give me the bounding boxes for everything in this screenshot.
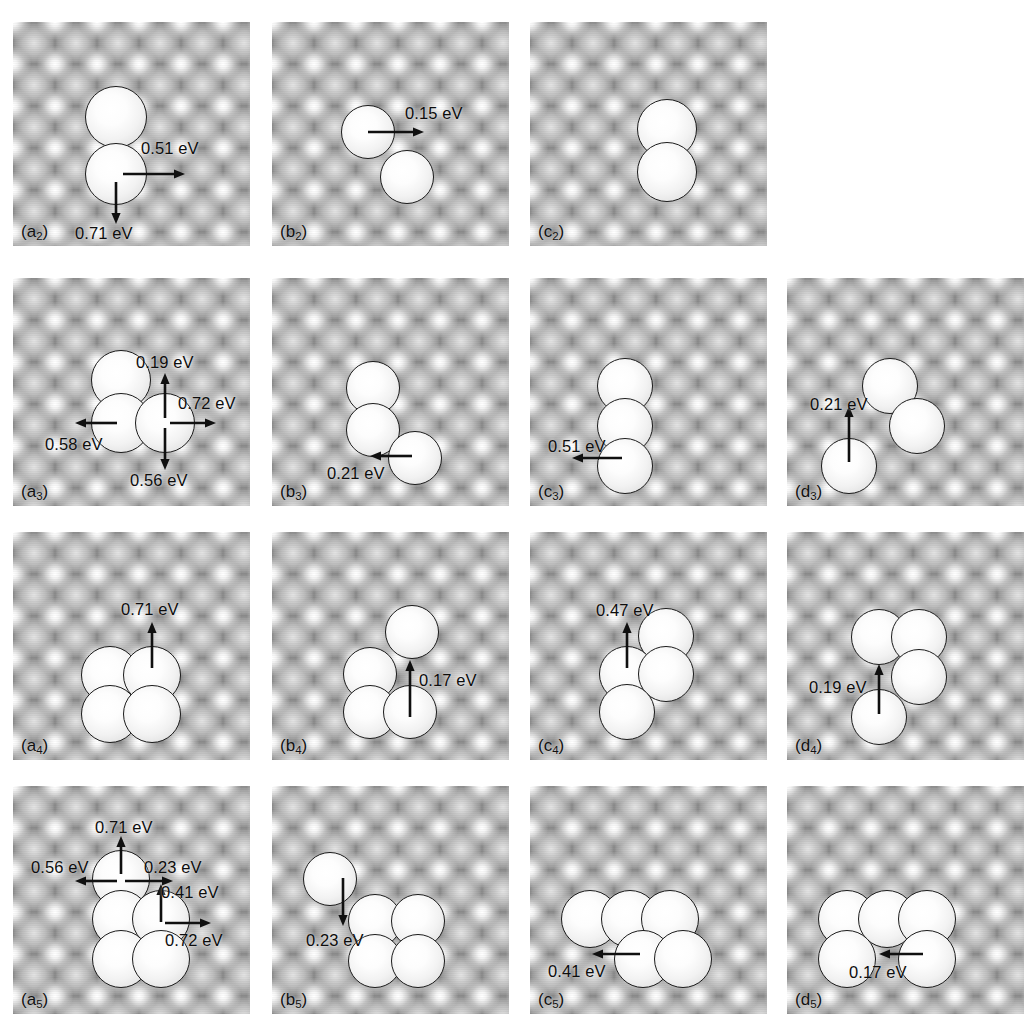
panel-caption-b2: (b2) — [280, 222, 307, 242]
caption-tail: ) — [302, 990, 308, 1009]
panel-b3: 0.21 eV(b3) — [272, 278, 509, 506]
caption-tail: ) — [559, 222, 565, 241]
panel-d4: 0.19 eV(d4) — [787, 532, 1024, 760]
panel-caption-d5: (d5) — [795, 990, 822, 1010]
adatom — [85, 86, 147, 148]
caption-tail: ) — [302, 222, 308, 241]
panel-caption-a3: (a3) — [21, 482, 48, 502]
panel-caption-c2: (c2) — [538, 222, 564, 242]
caption-tail: ) — [559, 990, 565, 1009]
caption-subscript: 3 — [552, 490, 558, 502]
adatom — [123, 685, 181, 743]
energy-barrier-label: 0.47 eV — [596, 602, 654, 619]
panel-caption-c4: (c4) — [538, 736, 564, 756]
adatom — [599, 684, 655, 740]
panel-caption-c5: (c5) — [538, 990, 564, 1010]
energy-barrier-label: 0.71 eV — [75, 225, 133, 242]
caption-main: (b — [280, 482, 295, 501]
energy-barrier-label: 0.21 eV — [810, 396, 868, 413]
energy-barrier-label: 0.15 eV — [405, 105, 463, 122]
panel-c2: (c2) — [530, 22, 767, 246]
adatom — [891, 649, 947, 705]
caption-subscript: 4 — [552, 744, 558, 756]
caption-main: (b — [280, 222, 295, 241]
caption-main: (c — [538, 990, 552, 1009]
caption-subscript: 4 — [810, 744, 816, 756]
panel-a5: 0.71 eV0.56 eV0.23 eV0.41 eV0.72 eV(a5) — [13, 786, 250, 1014]
caption-main: (d — [795, 990, 810, 1009]
adatom — [889, 398, 945, 454]
caption-main: (a — [21, 222, 36, 241]
caption-tail: ) — [559, 482, 565, 501]
arrow-left-icon — [61, 409, 131, 437]
caption-subscript: 4 — [295, 744, 301, 756]
caption-tail: ) — [817, 736, 823, 755]
caption-main: (c — [538, 736, 552, 755]
caption-subscript: 2 — [295, 230, 301, 242]
panel-caption-b3: (b3) — [280, 482, 307, 502]
caption-tail: ) — [817, 482, 823, 501]
arrow-up-icon — [613, 608, 641, 682]
caption-tail: ) — [43, 482, 49, 501]
caption-main: (b — [280, 736, 295, 755]
caption-subscript: 5 — [552, 998, 558, 1010]
caption-tail: ) — [559, 736, 565, 755]
adatom — [654, 930, 712, 988]
adatom — [637, 142, 697, 202]
caption-subscript: 2 — [36, 230, 42, 242]
caption-subscript: 3 — [810, 490, 816, 502]
caption-subscript: 3 — [36, 490, 42, 502]
panel-caption-b5: (b5) — [280, 990, 307, 1010]
adatom — [380, 150, 434, 204]
energy-barrier-label: 0.17 eV — [419, 672, 477, 689]
energy-barrier-label: 0.58 eV — [45, 436, 103, 453]
caption-main: (a — [21, 990, 36, 1009]
arrow-down-icon — [329, 864, 357, 940]
caption-main: (a — [21, 736, 36, 755]
caption-subscript: 2 — [552, 230, 558, 242]
caption-main: (d — [795, 736, 810, 755]
panel-c4: 0.47 eV(c4) — [530, 532, 767, 760]
panel-a2: 0.51 eV0.71 eV(a2) — [13, 22, 250, 246]
energy-barrier-label: 0.23 eV — [144, 859, 202, 876]
energy-barrier-label: 0.19 eV — [809, 679, 867, 696]
energy-barrier-label: 0.51 eV — [141, 140, 199, 157]
energy-barrier-label: 0.56 eV — [130, 472, 188, 489]
panel-d3: 0.21 eV(d3) — [787, 278, 1024, 506]
energy-barrier-label: 0.51 eV — [548, 438, 606, 455]
energy-barrier-label: 0.41 eV — [548, 963, 606, 980]
caption-subscript: 3 — [295, 490, 301, 502]
panel-caption-b4: (b4) — [280, 736, 307, 756]
panel-c3: 0.51 eV(c3) — [530, 278, 767, 506]
caption-tail: ) — [817, 990, 823, 1009]
energy-barrier-label: 0.56 eV — [31, 859, 89, 876]
energy-barrier-label: 0.72 eV — [165, 932, 223, 949]
panel-caption-d4: (d4) — [795, 736, 822, 756]
panel-b4: 0.17 eV(b4) — [272, 532, 509, 760]
caption-main: (b — [280, 990, 295, 1009]
energy-barrier-label: 0.71 eV — [95, 819, 153, 836]
panel-b5: 0.23 eV(b5) — [272, 786, 509, 1014]
panel-a4: 0.71 eV(a4) — [13, 532, 250, 760]
panel-caption-a4: (a4) — [21, 736, 48, 756]
arrow-right-icon — [354, 118, 438, 146]
energy-barrier-label: 0.72 eV — [178, 395, 236, 412]
panel-b2: 0.15 eV(b2) — [272, 22, 509, 246]
energy-barrier-label: 0.71 eV — [121, 601, 179, 618]
panel-d5: 0.17 eV(d5) — [787, 786, 1024, 1014]
caption-tail: ) — [43, 736, 49, 755]
caption-tail: ) — [302, 736, 308, 755]
caption-tail: ) — [302, 482, 308, 501]
energy-barrier-label: 0.21 eV — [327, 465, 385, 482]
energy-barrier-label: 0.41 eV — [161, 884, 219, 901]
panel-caption-c3: (c3) — [538, 482, 564, 502]
caption-subscript: 5 — [36, 998, 42, 1010]
caption-tail: ) — [43, 990, 49, 1009]
energy-barrier-label: 0.19 eV — [136, 354, 194, 371]
panel-caption-a5: (a5) — [21, 990, 48, 1010]
panel-caption-d3: (d3) — [795, 482, 822, 502]
diffusion-mechanism-figure: 0.51 eV0.71 eV(a2)0.15 eV(b2)(c2)0.19 eV… — [0, 0, 1035, 1021]
caption-subscript: 5 — [295, 998, 301, 1010]
panel-caption-a2: (a2) — [21, 222, 48, 242]
caption-main: (a — [21, 482, 36, 501]
